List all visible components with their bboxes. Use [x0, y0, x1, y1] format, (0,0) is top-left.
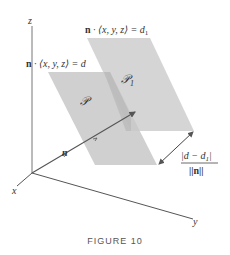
normal-vector-label: n: [62, 147, 68, 158]
distance-denominator: ||n||: [189, 165, 203, 176]
x-axis-label: x: [11, 185, 17, 196]
z-axis-label: z: [27, 15, 32, 26]
y-axis: [32, 173, 193, 219]
plane-p-equation: n · ⟨x, y, z⟩ = d: [26, 58, 87, 69]
y-axis-label: y: [192, 216, 198, 227]
distance-numerator: |d − d1|: [181, 150, 212, 163]
plane-p1-equation: n · ⟨x, y, z⟩ = d1: [85, 24, 149, 37]
figure-caption: FIGURE 10: [87, 236, 143, 246]
figure: z x y n · ⟨x, y, z⟩ = d1 n · ⟨x, y, z⟩ =…: [0, 0, 230, 255]
x-axis: [17, 173, 32, 186]
